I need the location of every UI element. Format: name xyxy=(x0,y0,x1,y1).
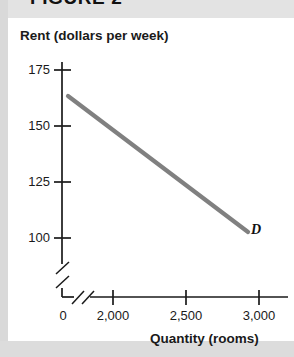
figure-scan-container: FIGURE 2 Rent (dollars per week) Quantit… xyxy=(0,0,294,357)
y-axis-break-slash-lower xyxy=(56,276,69,288)
y-tick-label-150: 150 xyxy=(16,118,50,133)
x-tick-label-2000: 2,000 xyxy=(86,308,140,323)
demand-curve xyxy=(68,96,248,232)
demand-curve-label: D xyxy=(251,222,261,238)
x-tick-label-0: 0 xyxy=(36,308,90,323)
y-tick-label-125: 125 xyxy=(16,174,50,189)
x-tick-label-3000: 3,000 xyxy=(232,308,286,323)
y-tick-label-100: 100 xyxy=(16,230,50,245)
y-tick-label-175: 175 xyxy=(16,62,50,77)
x-tick-label-2500: 2,500 xyxy=(159,308,213,323)
